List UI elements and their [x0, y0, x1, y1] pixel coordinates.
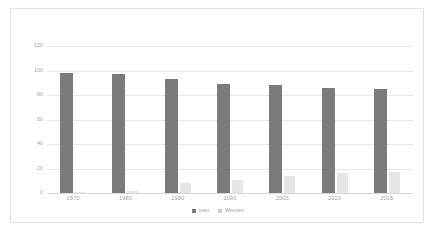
- x-tick-label-1990: 1990: [152, 196, 204, 202]
- bar-group-2005: [269, 46, 295, 193]
- x-tick-label-1980: 1980: [99, 196, 151, 202]
- bar-men-2000[interactable]: [217, 84, 230, 193]
- bar-women-1970[interactable]: [75, 192, 86, 193]
- bar-group-2000: [217, 46, 243, 193]
- x-tick-label-2005: 2005: [256, 196, 308, 202]
- bar-women-2015[interactable]: [389, 172, 400, 193]
- y-tick-label-80: 80: [21, 92, 43, 97]
- x-tick-label-2015: 2015: [361, 196, 413, 202]
- bar-women-2005[interactable]: [284, 176, 295, 193]
- y-tick-label-20: 20: [21, 166, 43, 171]
- legend-label-men: men: [199, 208, 210, 213]
- y-tick-label-100: 100: [21, 68, 43, 73]
- bar-men-2010[interactable]: [322, 88, 335, 193]
- bar-men-1970[interactable]: [60, 73, 73, 193]
- x-tick-label-1970: 1970: [47, 196, 99, 202]
- legend-item-women[interactable]: Women: [218, 208, 243, 213]
- bar-group-1970: [60, 46, 86, 193]
- legend-swatch-women-icon: [218, 209, 222, 213]
- bar-women-1990[interactable]: [180, 183, 191, 193]
- x-tick-label-2010: 2010: [308, 196, 360, 202]
- bar-group-1980: [112, 46, 138, 193]
- y-tick-label-0: 0: [21, 190, 43, 195]
- plot-area: [47, 46, 413, 193]
- bar-women-1980[interactable]: [127, 191, 138, 193]
- bar-women-2000[interactable]: [232, 180, 243, 193]
- bar-men-1980[interactable]: [112, 74, 125, 193]
- chart-legend: menWomen: [11, 208, 425, 213]
- y-tick-label-120: 120: [21, 43, 43, 48]
- gridline-0: [47, 193, 413, 194]
- y-tick-label-40: 40: [21, 141, 43, 146]
- bar-group-1990: [165, 46, 191, 193]
- x-tick-label-2000: 2000: [204, 196, 256, 202]
- legend-swatch-men-icon: [192, 209, 196, 213]
- legend-label-women: Women: [225, 208, 244, 213]
- bar-group-2015: [374, 46, 400, 193]
- bar-men-2015[interactable]: [374, 89, 387, 193]
- legend-item-men[interactable]: men: [192, 208, 209, 213]
- bar-group-2010: [322, 46, 348, 193]
- bar-men-2005[interactable]: [269, 85, 282, 193]
- y-axis: 020406080100120: [19, 46, 43, 193]
- y-tick-label-60: 60: [21, 117, 43, 122]
- bar-men-1990[interactable]: [165, 79, 178, 193]
- bar-women-2010[interactable]: [337, 173, 348, 193]
- bars-layer: [47, 46, 413, 193]
- chart-container: 020406080100120 197019801990200020052010…: [10, 8, 424, 223]
